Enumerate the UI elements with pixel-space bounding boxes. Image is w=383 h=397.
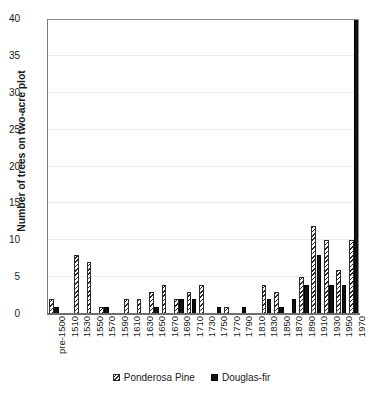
bar-douglas-fir — [192, 299, 197, 314]
x-axis-tick-label: 1770 — [232, 316, 242, 337]
bar-group — [124, 20, 134, 314]
bar-douglas-fir — [267, 299, 272, 314]
bar-ponderosa-pine — [311, 226, 316, 315]
x-axis-tick-label: 1530 — [82, 316, 92, 337]
y-axis-title: Number of trees on two-acre plot — [15, 51, 27, 251]
x-axis-tick-label: 1670 — [170, 316, 180, 337]
bar-group — [162, 20, 172, 314]
x-axis-tick-label: 1810 — [257, 316, 267, 337]
y-axis-tick-label: 10 — [0, 235, 20, 245]
bar-group — [336, 20, 346, 314]
bar-group — [99, 20, 109, 314]
bar-group — [87, 20, 97, 314]
legend-entry[interactable]: Douglas-fir — [211, 372, 270, 383]
y-axis-tick-label: 5 — [0, 272, 20, 282]
legend-label: Ponderosa Pine — [124, 372, 195, 383]
x-axis-tick-label: 1850 — [282, 316, 292, 337]
bar-series-container — [48, 20, 358, 314]
bar-group — [237, 20, 247, 314]
bar-ponderosa-pine — [349, 240, 354, 314]
bar-group — [311, 20, 321, 314]
y-axis-tick-label: 40 — [0, 14, 20, 24]
y-axis-tick-label: 0 — [0, 309, 20, 319]
x-axis-tick-label: 1570 — [107, 316, 117, 337]
bar-douglas-fir — [179, 299, 184, 314]
bar-ponderosa-pine — [137, 299, 142, 314]
y-axis-tick-label: 30 — [0, 88, 20, 98]
bar-group — [199, 20, 209, 314]
bar-group — [212, 20, 222, 314]
bar-douglas-fir — [342, 285, 347, 315]
bar-ponderosa-pine — [324, 240, 329, 314]
bar-ponderosa-pine — [199, 285, 204, 315]
x-axis-tick-label: 1630 — [145, 316, 155, 337]
y-axis-tick-label: 20 — [0, 162, 20, 172]
bar-group — [349, 20, 359, 314]
x-axis-tick-label: 1590 — [120, 316, 130, 337]
douglas-fir-swatch-icon — [211, 374, 218, 381]
bar-douglas-fir — [354, 19, 359, 314]
bar-group — [74, 20, 84, 314]
bar-ponderosa-pine — [336, 270, 341, 314]
y-axis-tick-label: 35 — [0, 51, 20, 61]
bar-douglas-fir — [292, 299, 297, 314]
bar-group — [112, 20, 122, 314]
x-axis-tick-label: 1890 — [307, 316, 317, 337]
legend-entry[interactable]: Ponderosa Pine — [113, 372, 195, 383]
bar-douglas-fir — [329, 285, 334, 315]
x-axis-tick-labels: pre-150015101530155015701590161016301650… — [47, 316, 360, 372]
bar-ponderosa-pine — [162, 285, 167, 315]
bar-douglas-fir — [304, 285, 309, 315]
bar-group — [262, 20, 272, 314]
tree-age-distribution-chart: Number of trees on two-acre plot 0510152… — [0, 0, 383, 397]
x-axis-tick-label: 1910 — [319, 316, 329, 337]
bar-group — [274, 20, 284, 314]
bar-group — [224, 20, 234, 314]
x-axis-tick-label: 1690 — [182, 316, 192, 337]
bar-ponderosa-pine — [262, 285, 267, 315]
x-axis-tick-label: 1650 — [157, 316, 167, 337]
y-axis-tick-label: 25 — [0, 125, 20, 135]
chart-legend: Ponderosa PineDouglas-fir — [0, 372, 383, 383]
y-axis-tick-label: 15 — [0, 198, 20, 208]
x-axis-tick-label: 1710 — [195, 316, 205, 337]
x-axis-tick-label: 1550 — [95, 316, 105, 337]
bar-ponderosa-pine — [124, 299, 129, 314]
bar-group — [49, 20, 59, 314]
x-axis-tick-label: 1970 — [357, 316, 367, 337]
x-axis-tick-label: 1830 — [269, 316, 279, 337]
x-axis-tick-label: 1870 — [294, 316, 304, 337]
bar-ponderosa-pine — [149, 292, 154, 314]
bar-group — [299, 20, 309, 314]
x-axis-tick-label: 1750 — [219, 316, 229, 337]
x-axis-tick-label: 1930 — [332, 316, 342, 337]
bar-group — [174, 20, 184, 314]
bar-ponderosa-pine — [274, 292, 279, 314]
x-axis-tick-label: 1950 — [344, 316, 354, 337]
bar-ponderosa-pine — [87, 262, 92, 314]
x-axis-tick-label: 1790 — [244, 316, 254, 337]
bar-group — [62, 20, 72, 314]
x-axis-line — [47, 313, 360, 315]
bar-group — [137, 20, 147, 314]
bar-ponderosa-pine — [299, 277, 304, 314]
ponderosa-pine-swatch-icon — [113, 374, 120, 381]
bar-group — [287, 20, 297, 314]
bar-group — [324, 20, 334, 314]
bar-douglas-fir — [317, 255, 322, 314]
bar-ponderosa-pine — [187, 292, 192, 314]
bar-group — [187, 20, 197, 314]
legend-label: Douglas-fir — [222, 372, 270, 383]
x-axis-tick-label: 1730 — [207, 316, 217, 337]
bar-ponderosa-pine — [49, 299, 54, 314]
bar-group — [149, 20, 159, 314]
plot-area — [47, 19, 359, 314]
x-axis-tick-label: 1510 — [70, 316, 80, 337]
x-axis-tick-label: 1610 — [132, 316, 142, 337]
bar-ponderosa-pine — [174, 299, 179, 314]
x-axis-tick-label: pre-1500 — [57, 316, 67, 354]
bar-ponderosa-pine — [74, 255, 79, 314]
bar-group — [249, 20, 259, 314]
